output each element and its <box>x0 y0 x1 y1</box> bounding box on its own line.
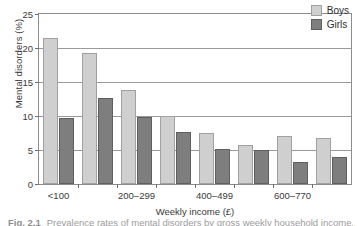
y-axis-tick-label: 25 <box>22 9 33 20</box>
y-axis-tick <box>35 82 39 83</box>
bar-boys-2 <box>121 90 137 184</box>
legend-swatch-boys <box>311 5 322 16</box>
legend-swatch-girls <box>311 19 322 30</box>
x-axis-tick <box>78 184 79 188</box>
x-axis-tick <box>156 184 157 188</box>
y-axis-tick <box>35 14 39 15</box>
bar-boys-7 <box>316 138 332 184</box>
y-axis-tick <box>35 150 39 151</box>
y-axis-tick-label: 15 <box>22 77 33 88</box>
y-axis-tick <box>35 184 39 185</box>
legend-label: Girls <box>327 19 348 30</box>
legend: BoysGirls <box>311 5 349 30</box>
x-axis-tick-label: <100 <box>48 190 69 201</box>
bar-boys-0 <box>43 38 59 184</box>
bar-boys-3 <box>160 116 176 184</box>
bar-girls-3 <box>176 132 192 184</box>
figure-caption-text: Prevalence rates of mental disorders by … <box>47 217 353 226</box>
x-axis-tick-label: 200–299 <box>118 190 155 201</box>
bars-layer <box>39 14 351 184</box>
y-axis-tick-label: 20 <box>22 43 33 54</box>
bar-boys-6 <box>277 136 293 184</box>
bar-girls-5 <box>254 150 270 184</box>
bar-girls-6 <box>293 162 309 184</box>
x-axis-tick <box>312 184 313 188</box>
bar-girls-0 <box>59 118 75 184</box>
bar-boys-5 <box>238 145 254 184</box>
y-axis-tick <box>35 116 39 117</box>
bar-girls-1 <box>98 98 114 184</box>
plot-area: 0510152025<100200–299400–499600–770 <box>38 13 352 185</box>
figure-number: Fig. 2.1 <box>8 217 41 226</box>
figure-bar-chart: Mental disorders (%) 0510152025<100200–2… <box>0 0 357 226</box>
x-axis-tick <box>117 184 118 188</box>
bar-girls-4 <box>215 149 231 184</box>
figure-caption: Fig. 2.1Prevalence rates of mental disor… <box>8 217 353 226</box>
legend-label: Boys <box>327 5 349 16</box>
y-axis-tick-label: 0 <box>28 179 33 190</box>
bar-boys-1 <box>82 53 98 184</box>
x-axis-tick <box>195 184 196 188</box>
bar-boys-4 <box>199 133 215 184</box>
bar-girls-2 <box>137 117 153 184</box>
x-axis-title: Weekly income (£) <box>38 206 352 217</box>
bar-girls-7 <box>332 157 348 184</box>
x-axis-tick <box>273 184 274 188</box>
x-axis-tick-label: 400–499 <box>196 190 233 201</box>
legend-item-boys: Boys <box>311 5 349 16</box>
legend-item-girls: Girls <box>311 19 349 30</box>
x-axis-tick-label: 600–770 <box>274 190 311 201</box>
y-axis-tick-label: 5 <box>28 145 33 156</box>
y-axis-tick-label: 10 <box>22 111 33 122</box>
x-axis-tick <box>234 184 235 188</box>
y-axis-tick <box>35 48 39 49</box>
